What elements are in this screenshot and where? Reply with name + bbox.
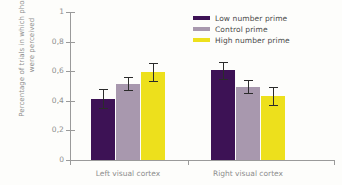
legend-swatch: [193, 16, 210, 20]
error-bar-cap-bottom: [99, 108, 108, 109]
y-tick: [66, 42, 75, 43]
legend: Low number primeControl primeHigh number…: [193, 13, 290, 46]
legend-swatch: [193, 38, 210, 42]
y-tick-label: 1: [34, 7, 64, 16]
error-bar-cap-top: [99, 89, 108, 90]
error-bar-cap-bottom: [269, 105, 278, 106]
error-bar-line: [248, 80, 249, 93]
y-tick: [66, 12, 75, 13]
error-bar-cap-bottom: [244, 93, 253, 94]
x-tick: [70, 160, 71, 165]
bar-chart-figure: Percentage of trials in which phosphines…: [0, 0, 342, 185]
x-tick: [334, 160, 335, 165]
y-tick-label: 0,6: [34, 66, 64, 75]
x-tick: [188, 160, 189, 165]
x-group-label: Right visual cortex: [188, 169, 308, 178]
legend-item: Low number prime: [193, 13, 290, 23]
bar: [116, 84, 140, 160]
error-bar-line: [223, 62, 224, 78]
error-bar-cap-top: [219, 62, 228, 63]
error-bar-cap-top: [244, 80, 253, 81]
y-tick: [66, 101, 75, 102]
y-axis-line: [70, 12, 71, 160]
error-bar-cap-top: [149, 63, 158, 64]
legend-label: Control prime: [215, 25, 268, 34]
error-bar-cap-bottom: [219, 79, 228, 80]
y-tick: [66, 130, 75, 131]
legend-swatch: [193, 27, 210, 31]
error-bar-cap-bottom: [124, 90, 133, 91]
y-tick-label: 0,2: [34, 125, 64, 134]
error-bar-line: [153, 63, 154, 81]
legend-item: Control prime: [193, 24, 290, 34]
error-bar-line: [273, 87, 274, 105]
bar: [141, 72, 165, 160]
legend-item: High number prime: [193, 35, 290, 45]
error-bar-cap-bottom: [149, 81, 158, 82]
x-axis-line: [70, 160, 334, 161]
y-tick-label: 0,8: [34, 37, 64, 46]
bar: [236, 87, 260, 160]
legend-label: Low number prime: [215, 14, 287, 23]
x-group-label: Left visual cortex: [68, 169, 188, 178]
error-bar-line: [103, 89, 104, 108]
error-bar-cap-top: [124, 77, 133, 78]
error-bar-cap-top: [269, 87, 278, 88]
bar: [211, 70, 235, 160]
error-bar-line: [128, 77, 129, 90]
legend-label: High number prime: [215, 36, 290, 45]
y-tick-label: 0,4: [34, 96, 64, 105]
y-tick-label: 0: [34, 155, 64, 164]
y-tick: [66, 71, 75, 72]
